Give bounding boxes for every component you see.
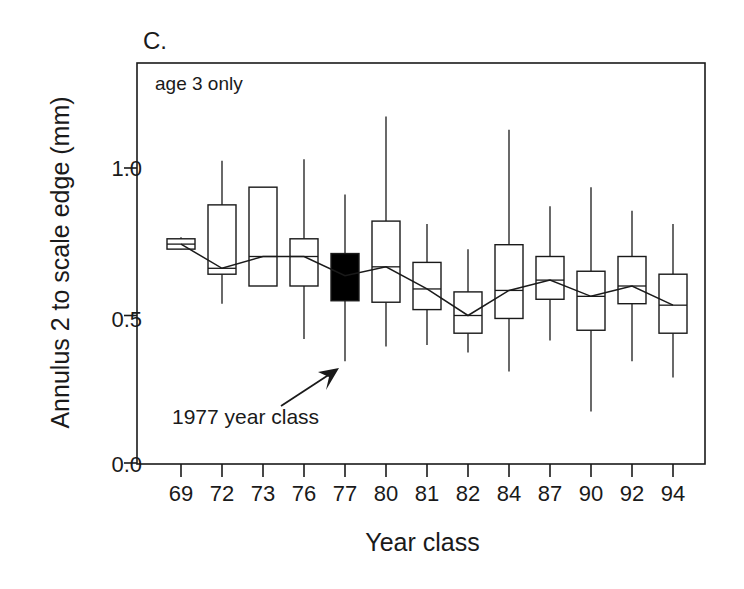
boxplot-80 <box>372 116 400 346</box>
boxplot-69 <box>167 237 195 249</box>
boxplot-84 <box>495 130 523 372</box>
boxplot-81 <box>413 224 441 345</box>
boxplot-77 <box>331 195 359 362</box>
boxplot-87 <box>536 206 564 340</box>
boxplot-73 <box>249 187 277 286</box>
annotation-arrow <box>281 368 339 406</box>
boxplot-72 <box>208 161 236 304</box>
boxplot-90 <box>577 187 605 411</box>
annotation-arrow-shaft <box>281 374 330 406</box>
boxplot-76 <box>290 159 318 339</box>
boxplot-canvas <box>0 0 744 589</box>
boxplot-series <box>167 116 687 411</box>
boxplot-82 <box>454 249 482 352</box>
figure-panel-c: Annulus 2 to scale edge (mm) Year class … <box>0 0 744 589</box>
